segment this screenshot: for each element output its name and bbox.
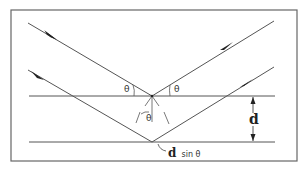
lower-reflected-ray [152,67,274,142]
path-difference-sin: sin θ [181,150,200,159]
path-difference-d: d [168,146,176,160]
path-difference-pointer [158,144,166,151]
arrowhead-icon [240,79,253,87]
arrow-up-icon [251,97,256,104]
spacing-label: d [249,112,259,126]
theta-inner-label: θ [146,114,152,123]
upper-reflected-ray [152,21,274,96]
bragg-diagram [0,0,305,169]
angle-arc-right [170,85,171,96]
angle-arc-left [133,85,134,96]
theta-incident-label: θ [124,85,130,94]
arrow-down-icon [251,134,256,141]
construction-line [136,112,140,123]
construction-line [145,96,152,106]
theta-reflected-label: θ [174,85,180,94]
reflection-point [151,95,154,98]
path-difference-label: d sin θ [168,144,200,160]
construction-line [152,96,159,106]
arrowhead-icon [44,30,57,40]
lower-incident-ray [28,70,152,142]
arrowhead-icon [220,42,233,50]
construction-line [164,112,169,124]
